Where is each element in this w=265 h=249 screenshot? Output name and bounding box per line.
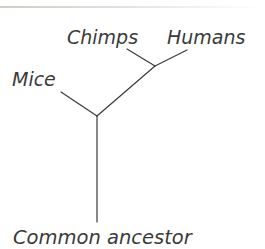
- branch-humans: [155, 50, 187, 66]
- label-common-ancestor: Common ancestor: [13, 226, 194, 249]
- label-chimps: Chimps: [67, 26, 138, 48]
- branch-chimps: [127, 49, 155, 66]
- branch-inner: [97, 66, 155, 116]
- branch-mice: [61, 92, 97, 116]
- label-humans: Humans: [167, 26, 246, 48]
- label-mice: Mice: [12, 68, 56, 90]
- phylogenetic-tree: Chimps Humans Mice Common ancestor: [0, 0, 265, 249]
